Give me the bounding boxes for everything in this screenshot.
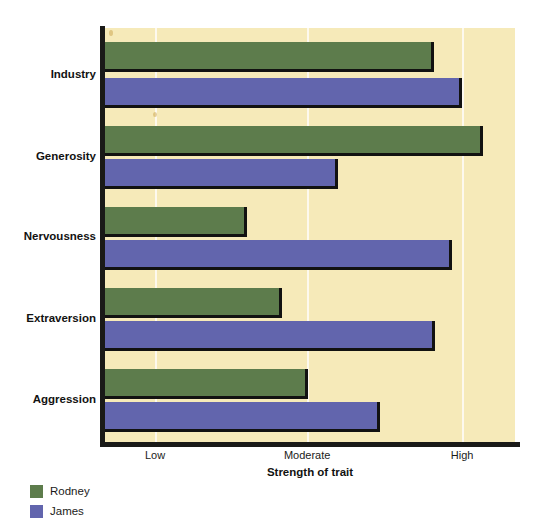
- legend-item-james[interactable]: James: [30, 501, 90, 521]
- legend: Rodney James: [30, 481, 90, 521]
- bar-extraversion-james[interactable]: [105, 321, 435, 351]
- bar-aggression-james[interactable]: [105, 402, 380, 432]
- bar-nervousness-rodney[interactable]: [105, 207, 247, 237]
- bar-industry-james[interactable]: [105, 78, 462, 108]
- x-tick-label-high: High: [451, 449, 474, 461]
- bar-row-industry-rodney: [105, 42, 515, 72]
- legend-label-james: James: [50, 505, 84, 517]
- bar-row-generosity-rodney: [105, 126, 515, 156]
- bar-row-generosity-james: [105, 159, 515, 189]
- legend-swatch-james-icon: [30, 505, 43, 518]
- bar-row-aggression-rodney: [105, 369, 515, 399]
- legend-item-rodney[interactable]: Rodney: [30, 481, 90, 501]
- scan-speck: [153, 112, 157, 117]
- bar-generosity-james[interactable]: [105, 159, 338, 189]
- legend-label-rodney: Rodney: [50, 485, 90, 497]
- x-axis-line: [100, 442, 520, 447]
- category-label-extraversion: Extraversion: [0, 312, 96, 324]
- category-label-aggression: Aggression: [0, 393, 96, 405]
- bar-row-nervousness-rodney: [105, 207, 515, 237]
- bar-extraversion-rodney[interactable]: [105, 288, 282, 318]
- bar-row-nervousness-james: [105, 240, 515, 270]
- bar-row-industry-james: [105, 78, 515, 108]
- bar-aggression-rodney[interactable]: [105, 369, 308, 399]
- scan-speck: [109, 30, 113, 36]
- bar-nervousness-james[interactable]: [105, 240, 452, 270]
- bar-generosity-rodney[interactable]: [105, 126, 483, 156]
- bar-industry-rodney[interactable]: [105, 42, 434, 72]
- bar-row-aggression-james: [105, 402, 515, 432]
- x-axis-title: Strength of trait: [105, 466, 515, 478]
- category-label-industry: Industry: [0, 68, 96, 80]
- x-tick-label-moderate: Moderate: [284, 449, 330, 461]
- category-label-generosity: Generosity: [0, 150, 96, 162]
- trait-strength-bar-chart: Industry Generosity Nervousness Extraver…: [0, 0, 538, 526]
- legend-swatch-rodney-icon: [30, 485, 43, 498]
- bar-row-extraversion-james: [105, 321, 515, 351]
- category-label-nervousness: Nervousness: [0, 230, 96, 242]
- x-tick-label-low: Low: [145, 449, 165, 461]
- bar-row-extraversion-rodney: [105, 288, 515, 318]
